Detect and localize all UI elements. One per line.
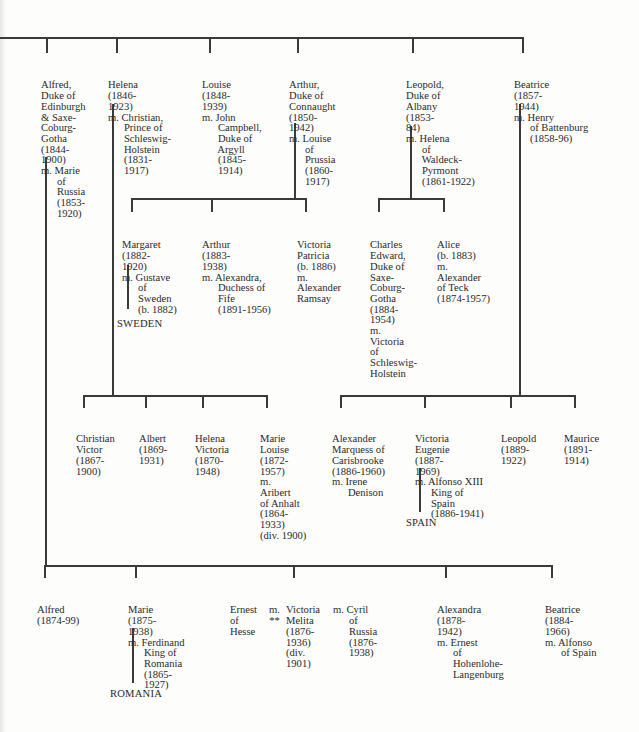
drop-albert — [145, 395, 147, 408]
page-edge-shadow — [0, 0, 6, 732]
drop-marie — [135, 565, 137, 578]
person-marie-louise: MarieLouise(1872-1957)m.Aribertof Anhalt… — [260, 413, 306, 552]
drop-arthur-jr — [211, 198, 213, 212]
drop-alfred — [46, 37, 48, 53]
drop-alfred-jr — [44, 565, 46, 578]
person-alfred-jr: Alfred(1874-99) — [37, 584, 79, 638]
drop-victoria-eugenie — [424, 395, 426, 408]
person-helena: Helena(1846-1923)m. Christian, Prince of… — [108, 59, 171, 187]
marriage-marker-hesse: m.** — [269, 584, 280, 638]
drop-leopold — [412, 37, 414, 53]
connaught-children-bar — [131, 198, 306, 200]
country-label-romania: ROMANIA — [110, 688, 162, 699]
person-arthur-jr: Arthur(1883-1938)m. Alexandra, Duchess o… — [202, 219, 271, 326]
person-beatrice-jr: Beatrice(1884-1966)m. Alfonso of Spain — [545, 584, 597, 670]
drop-beatrice-jr — [551, 565, 553, 578]
person-margaret: Margaret(1882-1920)m. Gustave of Sweden … — [122, 219, 177, 326]
person-ernest-of-hesse: ErnestofHesse — [230, 584, 257, 648]
person-victoria-melita: VictoriaMelita(1876-1936)(div.1901) — [286, 584, 320, 680]
person-alexander: AlexanderMarquess ofCarisbrooke(1886-196… — [332, 413, 385, 509]
person-victoria-patricia: VictoriaPatricia(b. 1886)m.AlexanderRams… — [297, 219, 341, 315]
country-label-spain: SPAIN — [406, 517, 437, 528]
person-christian-victor: ChristianVictor(1867-1900) — [76, 413, 115, 488]
drop-alice — [443, 198, 445, 212]
person-alexandra: Alexandra(1878-1942)m. Ernest of Hohenlo… — [437, 584, 504, 691]
drop-maurice — [574, 395, 576, 408]
drop-alexander — [340, 395, 342, 408]
person-charles-edward: CharlesEdward,Duke ofSaxe-Coburg-Gotha(1… — [370, 219, 417, 390]
drop-alexandra — [445, 565, 447, 578]
drop-victoria-melita — [293, 565, 295, 578]
drop-leopold-jr — [510, 395, 512, 408]
person-alice: Alice(b. 1883)m.Alexanderof Teck(1874-19… — [437, 219, 490, 315]
drop-helena — [116, 37, 118, 53]
helena-children-bar — [83, 395, 268, 397]
drop-margaret — [131, 198, 133, 212]
drop-marie-louise — [266, 395, 268, 408]
alfred-children-bar — [44, 565, 553, 567]
person-louise: Louise(1848-1939)m. John Campbell, Duke … — [202, 59, 262, 187]
person-maurice: Maurice(1891-1914) — [564, 413, 599, 477]
person-leopold-jr: Leopold(1889-1922) — [501, 413, 536, 477]
drop-victoria-patricia — [305, 198, 307, 212]
beatrice-children-bar — [340, 395, 575, 397]
person-albert: Albert(1869-1931) — [139, 413, 167, 477]
albany-children-bar — [378, 198, 444, 200]
drop-louise — [209, 37, 211, 53]
country-label-sweden: SWEDEN — [117, 318, 162, 329]
person-marie: Marie(1875-1938)m. Ferdinand King of Rom… — [128, 584, 185, 702]
person-cyril-of-russia: m. Cyril of Russia (1876- 1938) — [333, 584, 377, 670]
person-leopold: Leopold,Duke ofAlbany(1853-84)m. Helena … — [406, 59, 475, 198]
drop-arthur — [297, 37, 299, 53]
gen1-bar — [0, 37, 524, 39]
person-alfred: Alfred,Duke ofEdinburgh& Saxe-Coburg-Got… — [41, 59, 86, 230]
person-helena-victoria: HelenaVictoria(1870-1948) — [195, 413, 229, 488]
drop-beatrice — [522, 37, 524, 53]
drop-christian-victor — [83, 395, 85, 408]
person-arthur: Arthur,Duke ofConnaught(1850-1942)m. Lou… — [289, 59, 336, 198]
person-victoria-eugenie: VictoriaEugenie(1887-1969)m. Alfonso XII… — [415, 413, 484, 531]
drop-charles-edward — [378, 198, 380, 212]
drop-helena-victoria — [202, 395, 204, 408]
person-beatrice: Beatrice(1857-1944)m. Henry of Battenbur… — [514, 59, 588, 155]
